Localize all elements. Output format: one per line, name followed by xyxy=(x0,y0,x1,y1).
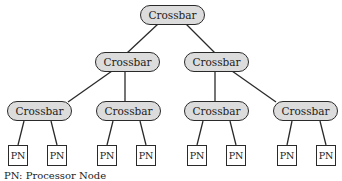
crossbar-tree-diagram: Crossbar Crossbar Crossbar Crossbar Cros… xyxy=(0,0,342,181)
processor-node-4: PN xyxy=(136,145,156,166)
processor-node-5: PN xyxy=(187,145,207,166)
crossbar-mid-right: Crossbar xyxy=(184,52,249,72)
processor-node-8: PN xyxy=(316,145,336,166)
processor-node-3: PN xyxy=(97,145,117,166)
crossbar-mid-left: Crossbar xyxy=(95,52,160,72)
processor-node-1: PN xyxy=(8,145,28,166)
processor-node-6: PN xyxy=(226,145,246,166)
crossbar-root: Crossbar xyxy=(140,5,205,25)
processor-node-7: PN xyxy=(277,145,297,166)
processor-node-2: PN xyxy=(47,145,67,166)
crossbar-low-4: Crossbar xyxy=(273,101,338,121)
crossbar-low-2: Crossbar xyxy=(96,101,161,121)
crossbar-low-1: Crossbar xyxy=(7,101,72,121)
crossbar-low-3: Crossbar xyxy=(184,101,249,121)
legend-text: PN: Processor Node xyxy=(4,170,106,181)
